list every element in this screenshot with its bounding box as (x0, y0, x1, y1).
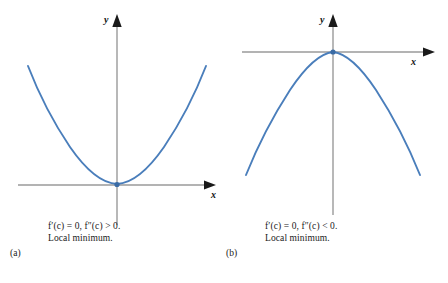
y-axis-label-b: y (320, 15, 324, 25)
caption-b-line2: Local minimum. (265, 233, 337, 245)
panel-letter-b: (b) (226, 248, 237, 258)
y-axis-label-a: y (104, 15, 108, 25)
vertex-point-b (330, 49, 335, 54)
panel-b: y x f′(c) = 0, f″(c) < 0. Local minimum.… (224, 0, 448, 283)
caption-a-line2: Local minimum. (48, 233, 120, 245)
figure-root: y x f′(c) = 0, f″(c) > 0. Local minimum.… (0, 0, 448, 283)
caption-a-line1: f′(c) = 0, f″(c) > 0. (48, 221, 120, 233)
caption-b: f′(c) = 0, f″(c) < 0. Local minimum. (265, 221, 337, 244)
panel-letter-a: (a) (10, 248, 21, 258)
x-axis-label-a: x (211, 190, 216, 200)
vertex-point-a (114, 182, 119, 187)
caption-b-line1: f′(c) = 0, f″(c) < 0. (265, 221, 337, 233)
y-axis-arrow-b (328, 14, 337, 27)
caption-a: f′(c) = 0, f″(c) > 0. Local minimum. (48, 221, 120, 244)
y-axis-arrow-a (112, 14, 121, 27)
x-axis-label-b: x (411, 57, 416, 67)
x-axis-arrow-b (423, 48, 435, 57)
panel-a: y x f′(c) = 0, f″(c) > 0. Local minimum.… (0, 0, 224, 283)
